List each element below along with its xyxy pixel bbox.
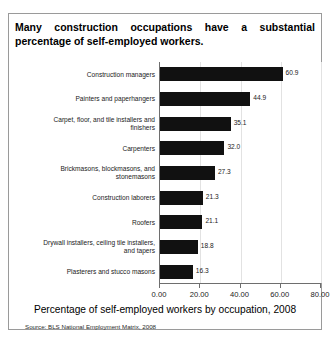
x-tickmark bbox=[240, 284, 241, 288]
x-tick-label: 20.00 bbox=[179, 290, 219, 299]
bar bbox=[160, 215, 202, 229]
bar-row: 44.9 bbox=[160, 92, 321, 106]
source-note: Source: BLS National Employment Matrix, … bbox=[25, 323, 156, 330]
bar-value-label: 16.3 bbox=[196, 267, 209, 274]
x-tick-label: 40.00 bbox=[220, 290, 260, 299]
bar bbox=[160, 141, 224, 155]
bar-row: 16.3 bbox=[160, 265, 321, 279]
bar-value-label: 60.9 bbox=[286, 69, 299, 76]
bar-row: 32.0 bbox=[160, 141, 321, 155]
category-label: Painters and paperhangers bbox=[9, 95, 155, 103]
bar-row: 27.3 bbox=[160, 166, 321, 180]
x-tickmark bbox=[280, 284, 281, 288]
bar-row: 35.1 bbox=[160, 117, 321, 131]
category-label-line: Carpet, floor, and tile installers and bbox=[9, 116, 155, 124]
category-label-line: Painters and paperhangers bbox=[9, 95, 155, 103]
chart-figure: Many construction occupations have a sub… bbox=[8, 13, 322, 330]
category-label: Construction managers bbox=[9, 71, 155, 79]
category-label-line: Roofers bbox=[9, 219, 155, 227]
bar bbox=[160, 265, 193, 279]
bar bbox=[160, 92, 250, 106]
bar bbox=[160, 166, 215, 180]
chart-title: Many construction occupations have a sub… bbox=[15, 20, 315, 48]
category-label-line: stonemasons bbox=[9, 173, 155, 181]
category-axis-labels: Construction managersPainters and paperh… bbox=[9, 62, 159, 284]
plot-axes: 60.944.935.132.027.321.321.118.816.3 bbox=[159, 62, 321, 284]
chart-title-line-2: percentage of self-employed workers. bbox=[15, 34, 315, 48]
category-label-line: Construction managers bbox=[9, 71, 155, 79]
gridline bbox=[321, 62, 322, 283]
x-tickmark bbox=[199, 284, 200, 288]
category-label-line: Brickmasons, blockmasons, and bbox=[9, 165, 155, 173]
bar-value-label: 21.1 bbox=[205, 217, 218, 224]
category-label: Carpet, floor, and tile installers andfi… bbox=[9, 116, 155, 131]
bar-row: 21.1 bbox=[160, 215, 321, 229]
x-tickmark bbox=[320, 284, 321, 288]
bar bbox=[160, 67, 283, 81]
x-tickmark bbox=[159, 284, 160, 288]
category-label-line: finishers bbox=[9, 124, 155, 132]
x-axis-tickmarks bbox=[159, 284, 321, 289]
bar-value-label: 35.1 bbox=[234, 119, 247, 126]
bar bbox=[160, 191, 203, 205]
category-label-line: Construction laborers bbox=[9, 194, 155, 202]
category-label: Construction laborers bbox=[9, 194, 155, 202]
category-label-line: Carpenters bbox=[9, 145, 155, 153]
bar-value-label: 27.3 bbox=[218, 168, 231, 175]
bar bbox=[160, 117, 231, 131]
chart-title-line-1: Many construction occupations have a sub… bbox=[15, 20, 315, 34]
x-tick-label: 80.00 bbox=[300, 290, 332, 299]
bar-value-label: 44.9 bbox=[253, 94, 266, 101]
bar bbox=[160, 240, 198, 254]
bar-value-label: 18.8 bbox=[201, 242, 214, 249]
bar-row: 18.8 bbox=[160, 240, 321, 254]
category-label: Roofers bbox=[9, 219, 155, 227]
category-label-line: Drywall installers, ceiling tile install… bbox=[9, 239, 155, 247]
plot-area: Construction managersPainters and paperh… bbox=[9, 62, 321, 290]
category-label: Carpenters bbox=[9, 145, 155, 153]
x-axis-tick-labels: 0.0020.0040.0060.0080.00 bbox=[119, 290, 324, 302]
x-tick-label: 0.00 bbox=[139, 290, 179, 299]
bar-row: 60.9 bbox=[160, 67, 321, 81]
category-label: Drywall installers, ceiling tile install… bbox=[9, 239, 155, 254]
x-axis-title: Percentage of self-employed workers by o… bbox=[9, 304, 321, 315]
bar-value-label: 32.0 bbox=[227, 143, 240, 150]
category-label: Plasterers and stucco masons bbox=[9, 268, 155, 276]
category-label: Brickmasons, blockmasons, andstonemasons bbox=[9, 165, 155, 180]
category-label-line: and tapers bbox=[9, 247, 155, 255]
bar-row: 21.3 bbox=[160, 191, 321, 205]
bar-value-label: 21.3 bbox=[206, 193, 219, 200]
category-label-line: Plasterers and stucco masons bbox=[9, 268, 155, 276]
x-tick-label: 60.00 bbox=[260, 290, 300, 299]
